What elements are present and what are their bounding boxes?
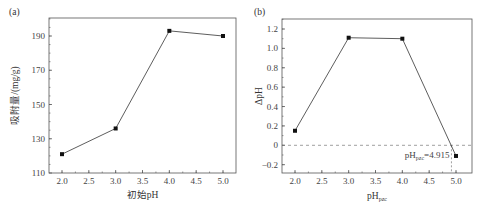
y-tick-label: 150 (32, 100, 46, 110)
chart-panel-a: 2.02.53.03.54.04.55.0110130150170190(a)初… (9, 7, 236, 200)
y-tick-label: −0.2 (262, 160, 278, 170)
y-tick-label: 130 (32, 134, 46, 144)
x-tick-label: 5.0 (450, 176, 462, 186)
y-axis-label: 吸附量/(mg/g) (9, 66, 21, 125)
x-tick-label: 2.5 (83, 176, 95, 186)
data-point-marker (114, 126, 118, 130)
data-point-marker (221, 34, 225, 38)
chart-panel-b: 2.02.53.03.54.04.55.0−0.200.20.40.60.81.… (254, 7, 472, 202)
y-tick-label: 0.6 (267, 82, 279, 92)
y-tick-label: 0.4 (267, 102, 279, 112)
panel-label: (a) (9, 7, 20, 18)
x-axis-label: 初始pH (127, 189, 159, 200)
y-tick-label: 0 (274, 140, 279, 150)
x-tick-label: 2.0 (289, 176, 301, 186)
x-tick-label: 3.5 (137, 176, 149, 186)
x-tick-label: 2.0 (56, 176, 68, 186)
x-tick-label: 4.0 (397, 176, 409, 186)
data-point-marker (347, 36, 351, 40)
x-tick-label: 2.5 (316, 176, 328, 186)
data-point-marker (60, 152, 64, 156)
data-series-line (62, 31, 223, 154)
x-tick-label: 4.5 (424, 176, 436, 186)
y-tick-label: 0.8 (267, 63, 279, 73)
y-tick-label: 110 (32, 168, 46, 178)
data-point-marker (167, 29, 171, 33)
y-tick-label: 170 (32, 65, 46, 75)
data-series-line (295, 38, 456, 156)
x-tick-label: 3.0 (110, 176, 122, 186)
y-axis-label: ΔpH (254, 87, 264, 105)
data-point-marker (293, 129, 297, 133)
y-tick-label: 1.2 (267, 24, 278, 34)
data-point-marker (400, 37, 404, 41)
plot-frame (49, 18, 236, 173)
x-tick-label: 3.0 (343, 176, 355, 186)
x-tick-label: 4.0 (164, 176, 176, 186)
data-point-marker (454, 154, 458, 158)
x-tick-label: 3.5 (370, 176, 382, 186)
y-tick-label: 190 (32, 31, 46, 41)
x-axis-label: pHpzc (367, 191, 387, 202)
panel-label: (b) (254, 7, 265, 18)
y-tick-label: 0.2 (267, 121, 278, 131)
x-tick-label: 4.5 (191, 176, 203, 186)
y-tick-label: 1.0 (267, 43, 279, 53)
chart-canvas: 2.02.53.03.54.04.55.0110130150170190(a)初… (0, 0, 485, 211)
pzc-annotation: pHpzc=4.915 (405, 150, 450, 161)
x-tick-label: 5.0 (217, 176, 229, 186)
